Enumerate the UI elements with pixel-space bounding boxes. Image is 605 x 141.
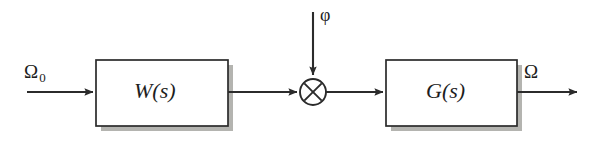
- block-diagram-canvas: [0, 0, 605, 141]
- input-signal-symbol: Ω: [24, 61, 38, 82]
- input-signal-label: Ω0: [24, 62, 45, 81]
- input-signal-subscript: 0: [39, 70, 46, 85]
- output-signal-label: Ω: [524, 62, 538, 81]
- block-diagram: W(s) G(s) Ω0 Ω φ: [0, 0, 605, 141]
- plant-block-label: G(s): [426, 80, 465, 102]
- controller-block-label: W(s): [134, 80, 176, 102]
- multiplier-junction[interactable]: [300, 79, 326, 105]
- disturbance-signal-label: φ: [320, 6, 330, 24]
